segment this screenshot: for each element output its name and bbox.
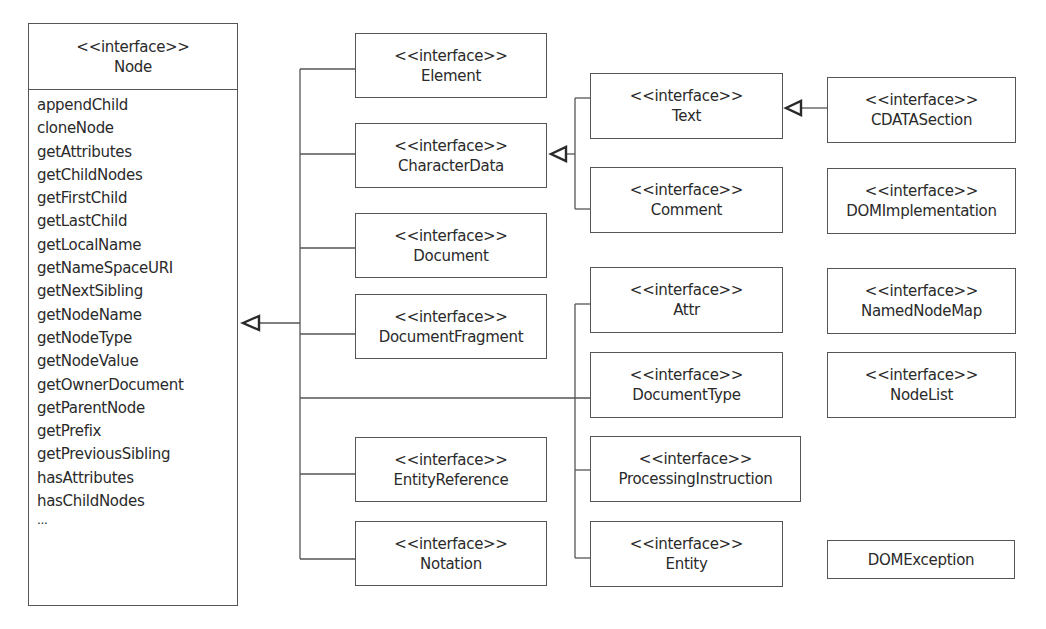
class-name: DOMException <box>868 550 975 570</box>
method-item: getLastChild <box>37 210 237 233</box>
method-list: appendChild cloneNode getAttributes getC… <box>29 90 237 527</box>
class-box-node: <<interface>> Node appendChild cloneNode… <box>28 23 238 606</box>
stereotype-label: <<interface>> <box>76 37 189 57</box>
stereotype-label: <<interface>> <box>865 365 978 385</box>
method-item: getPrefix <box>37 420 237 443</box>
method-item: getNameSpaceURI <box>37 257 237 280</box>
method-item: getAttributes <box>37 141 237 164</box>
class-box-domexception: DOMException <box>827 540 1015 579</box>
class-name: NodeList <box>890 385 953 405</box>
class-box-attr: <<interface>> Attr <box>590 267 783 333</box>
class-name: DocumentType <box>632 385 741 405</box>
class-name: Entity <box>666 554 708 574</box>
class-name: NamedNodeMap <box>861 301 982 321</box>
class-box-cdatasection: <<interface>> CDATASection <box>827 77 1016 143</box>
class-name: Notation <box>420 554 482 574</box>
method-item: getOwnerDocument <box>37 374 237 397</box>
stereotype-label: <<interface>> <box>630 280 743 300</box>
class-box-domimplementation: <<interface>> DOMImplementation <box>827 168 1016 234</box>
stereotype-label: <<interface>> <box>630 534 743 554</box>
stereotype-label: <<interface>> <box>394 534 507 554</box>
method-item: getNextSibling <box>37 280 237 303</box>
stereotype-label: <<interface>> <box>394 307 507 327</box>
class-box-document: <<interface>> Document <box>355 213 547 278</box>
method-item: getPreviousSibling <box>37 443 237 466</box>
method-item: getChildNodes <box>37 164 237 187</box>
method-item: appendChild <box>37 94 237 117</box>
class-name: DocumentFragment <box>379 327 524 347</box>
method-item: getLocalName <box>37 234 237 257</box>
class-name: Element <box>421 66 481 86</box>
method-item: ... <box>37 513 237 527</box>
class-box-characterdata: <<interface>> CharacterData <box>355 123 547 188</box>
method-item: getNodeType <box>37 327 237 350</box>
stereotype-label: <<interface>> <box>394 450 507 470</box>
class-name: Text <box>672 106 701 126</box>
stereotype-label: <<interface>> <box>639 449 752 469</box>
class-box-processinginstruction: <<interface>> ProcessingInstruction <box>590 436 801 502</box>
uml-diagram: <<interface>> Node appendChild cloneNode… <box>0 0 1046 629</box>
class-name: Node <box>114 57 152 77</box>
stereotype-label: <<interface>> <box>394 136 507 156</box>
method-item: getFirstChild <box>37 187 237 210</box>
class-header-node: <<interface>> Node <box>29 24 237 90</box>
method-item: hasChildNodes <box>37 490 237 513</box>
method-item: getNodeName <box>37 304 237 327</box>
class-name: CDATASection <box>871 110 972 130</box>
class-box-entity: <<interface>> Entity <box>590 521 783 587</box>
class-name: ProcessingInstruction <box>618 469 772 489</box>
generalization-arrow-node <box>243 316 259 330</box>
method-item: hasAttributes <box>37 467 237 490</box>
generalization-arrow-characterdata <box>551 147 566 161</box>
class-box-notation: <<interface>> Notation <box>355 521 547 586</box>
stereotype-label: <<interface>> <box>630 86 743 106</box>
stereotype-label: <<interface>> <box>865 90 978 110</box>
class-box-element: <<interface>> Element <box>355 33 547 98</box>
class-name: Comment <box>651 200 722 220</box>
class-box-comment: <<interface>> Comment <box>590 167 783 233</box>
stereotype-label: <<interface>> <box>630 365 743 385</box>
class-name: Attr <box>673 300 700 320</box>
stereotype-label: <<interface>> <box>630 180 743 200</box>
class-name: DOMImplementation <box>846 201 996 221</box>
class-box-documentfragment: <<interface>> DocumentFragment <box>355 294 547 359</box>
class-box-namednodemap: <<interface>> NamedNodeMap <box>827 268 1016 334</box>
stereotype-label: <<interface>> <box>865 281 978 301</box>
class-name: Document <box>413 246 488 266</box>
class-name: EntityReference <box>394 470 509 490</box>
generalization-arrow-text <box>786 101 801 115</box>
stereotype-label: <<interface>> <box>394 226 507 246</box>
method-item: getNodeValue <box>37 350 237 373</box>
stereotype-label: <<interface>> <box>394 46 507 66</box>
class-box-entityreference: <<interface>> EntityReference <box>355 437 547 502</box>
method-item: getParentNode <box>37 397 237 420</box>
class-box-documenttype: <<interface>> DocumentType <box>590 352 783 418</box>
stereotype-label: <<interface>> <box>865 181 978 201</box>
class-box-text: <<interface>> Text <box>590 73 783 139</box>
class-box-nodelist: <<interface>> NodeList <box>827 352 1016 418</box>
method-item: cloneNode <box>37 117 237 140</box>
class-name: CharacterData <box>398 156 504 176</box>
